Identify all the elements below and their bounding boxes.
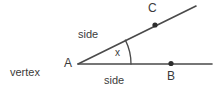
point-marker-c	[152, 22, 157, 27]
label-side-upper: side	[78, 29, 98, 40]
angle-diagram-figure: A B C side side x vertex	[0, 0, 219, 93]
label-point-b: B	[167, 70, 175, 82]
label-vertex-caption: vertex	[10, 67, 40, 78]
label-point-a: A	[64, 57, 72, 69]
point-marker-b	[168, 61, 173, 66]
label-angle-x: x	[115, 48, 120, 58]
label-point-c: C	[148, 2, 157, 14]
angle-arc	[125, 40, 131, 64]
label-side-lower: side	[104, 75, 124, 86]
